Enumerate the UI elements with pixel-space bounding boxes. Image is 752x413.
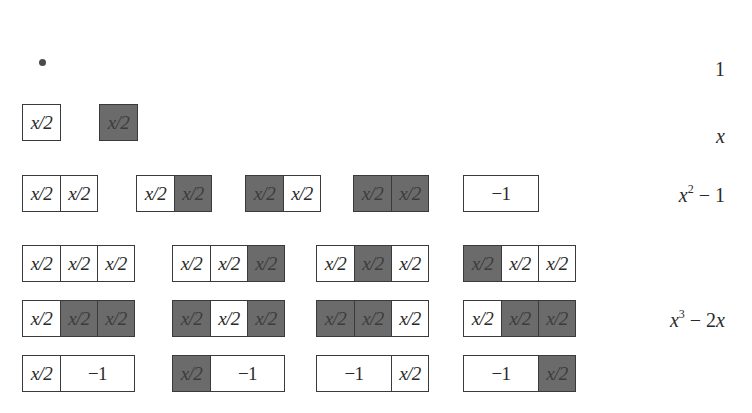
minus-one-tile: −1 (60, 356, 134, 391)
shaded-half-x-tile: x/2 (354, 246, 391, 281)
white-half-x-tile: x/2 (23, 176, 60, 211)
white-half-x-tile: x/2 (23, 105, 60, 140)
label-degree-0: 1 (715, 58, 725, 81)
tiling-degree-3: −1x/2 (316, 355, 429, 392)
label-degree-2: x2 − 1 (679, 184, 725, 207)
tiling-degree-2: x/2x/2 (353, 175, 429, 212)
tiling-degree-3: x/2x/2x/2 (463, 245, 576, 282)
shaded-half-x-tile: x/2 (247, 301, 284, 336)
polynomial-variable: x (716, 309, 725, 331)
white-half-x-tile: x/2 (391, 301, 428, 336)
minus-one-tile: −1 (210, 356, 284, 391)
white-half-x-tile: x/2 (23, 356, 60, 391)
white-half-x-tile: x/2 (501, 246, 538, 281)
minus-one-tile: −1 (317, 356, 391, 391)
white-half-x-tile: x/2 (391, 246, 428, 281)
shaded-half-x-tile: x/2 (538, 356, 575, 391)
white-half-x-tile: x/2 (173, 246, 210, 281)
polynomial-text: − 2 (685, 309, 716, 331)
minus-one-tile: −1 (464, 356, 538, 391)
tiling-degree-3: x/2x/2x/2 (463, 300, 576, 337)
empty-tiling-dot (39, 59, 46, 66)
tiling-degree-3: x/2x/2x/2 (172, 245, 285, 282)
white-half-x-tile: x/2 (23, 246, 60, 281)
shaded-half-x-tile: x/2 (317, 301, 354, 336)
tiling-degree-3: x/2x/2x/2 (22, 245, 135, 282)
shaded-half-x-tile: x/2 (173, 301, 210, 336)
shaded-half-x-tile: x/2 (246, 176, 283, 211)
label-degree-3: x3 − 2x (670, 309, 725, 332)
tiling-degree-3: x/2x/2x/2 (316, 245, 429, 282)
shaded-half-x-tile: x/2 (501, 301, 538, 336)
shaded-half-x-tile: x/2 (538, 301, 575, 336)
tiling-degree-3: x/2−1 (172, 355, 285, 392)
minus-one-tile: −1 (464, 176, 538, 211)
tiling-degree-2: x/2x/2 (136, 175, 212, 212)
white-half-x-tile: x/2 (137, 176, 174, 211)
white-half-x-tile: x/2 (464, 301, 501, 336)
tiling-degree-2: x/2x/2 (22, 175, 98, 212)
shaded-half-x-tile: x/2 (247, 246, 284, 281)
polynomial-variable: x (679, 184, 688, 206)
tiling-degree-3: x/2x/2x/2 (316, 300, 429, 337)
shaded-half-x-tile: x/2 (391, 176, 428, 211)
tiling-degree-3: x/2−1 (22, 355, 135, 392)
tiling-degree-3: x/2x/2x/2 (22, 300, 135, 337)
shaded-half-x-tile: x/2 (464, 246, 501, 281)
polynomial-text: − 1 (694, 184, 725, 206)
tiling-degree-2: x/2x/2 (245, 175, 321, 212)
white-half-x-tile: x/2 (60, 246, 97, 281)
shaded-half-x-tile: x/2 (174, 176, 211, 211)
tiling-degree-1: x/2 (99, 104, 138, 141)
label-degree-1: x (716, 125, 725, 148)
shaded-half-x-tile: x/2 (60, 301, 97, 336)
white-half-x-tile: x/2 (210, 246, 247, 281)
polynomial-text: 1 (715, 58, 725, 80)
shaded-half-x-tile: x/2 (100, 105, 137, 140)
shaded-half-x-tile: x/2 (354, 176, 391, 211)
white-half-x-tile: x/2 (538, 246, 575, 281)
white-half-x-tile: x/2 (97, 246, 134, 281)
white-half-x-tile: x/2 (210, 301, 247, 336)
white-half-x-tile: x/2 (23, 301, 60, 336)
shaded-half-x-tile: x/2 (354, 301, 391, 336)
tiling-degree-3: −1x/2 (463, 355, 576, 392)
white-half-x-tile: x/2 (317, 246, 354, 281)
white-half-x-tile: x/2 (60, 176, 97, 211)
polynomial-variable: x (716, 125, 725, 147)
shaded-half-x-tile: x/2 (97, 301, 134, 336)
polynomial-variable: x (670, 309, 679, 331)
tiling-degree-2: −1 (463, 175, 539, 212)
white-half-x-tile: x/2 (391, 356, 428, 391)
shaded-half-x-tile: x/2 (173, 356, 210, 391)
tiling-degree-3: x/2x/2x/2 (172, 300, 285, 337)
tiling-degree-1: x/2 (22, 104, 61, 141)
white-half-x-tile: x/2 (283, 176, 320, 211)
